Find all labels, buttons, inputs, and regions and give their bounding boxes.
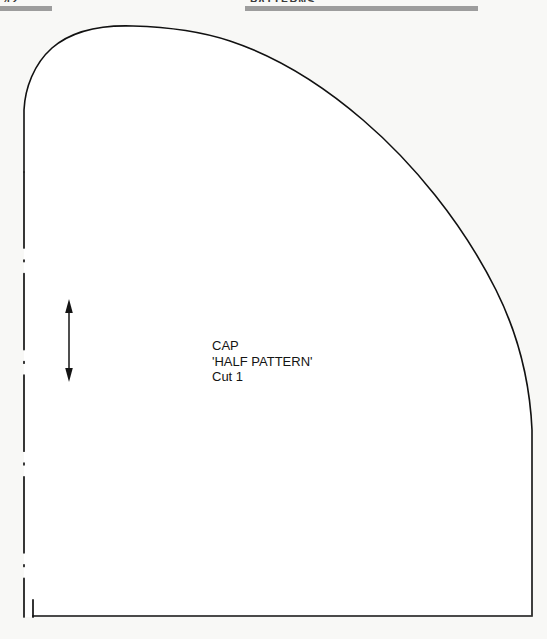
- cap-outline-shape: [24, 26, 532, 617]
- page-canvas: 42 PATTERNS CAP 'HALF PATTERN' Cut 1: [0, 0, 547, 639]
- pattern-drawing: [0, 0, 547, 639]
- pattern-label-title: CAP: [212, 338, 313, 354]
- pattern-label-subtitle: 'HALF PATTERN': [212, 354, 313, 370]
- pattern-label-block: CAP 'HALF PATTERN' Cut 1: [212, 338, 313, 385]
- pattern-label-cut: Cut 1: [212, 369, 313, 385]
